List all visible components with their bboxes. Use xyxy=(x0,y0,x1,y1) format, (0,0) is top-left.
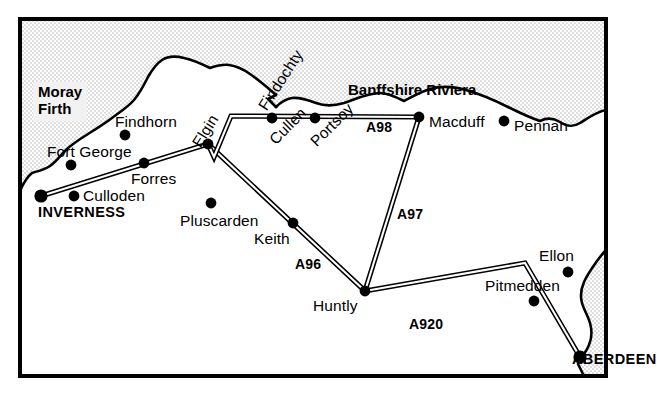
settlement-dot-findhorn[interactable] xyxy=(120,130,131,141)
road-label-a96[interactable]: A96 xyxy=(295,257,321,271)
water-label-moray-firth: Moray Firth xyxy=(33,82,87,121)
settlement-label-aberdeen[interactable]: ABERDEEN xyxy=(572,352,657,367)
settlement-label-forres[interactable]: Forres xyxy=(131,171,176,187)
road-label-a97[interactable]: A97 xyxy=(397,207,423,221)
settlement-dot-fort-george[interactable] xyxy=(66,160,77,171)
settlement-dot-keith[interactable] xyxy=(288,218,299,229)
settlement-dot-pitmedden[interactable] xyxy=(529,296,540,307)
water-label-line2: Firth xyxy=(38,101,82,118)
settlement-dot-inverness[interactable] xyxy=(34,189,47,202)
settlement-label-fort-george[interactable]: Fort George xyxy=(47,144,132,160)
region-label-banffshire-riviera: Banffshire Riviera xyxy=(348,82,476,97)
settlement-label-ellon[interactable]: Ellon xyxy=(539,248,574,264)
settlement-dot-cullen[interactable] xyxy=(267,113,278,124)
settlement-dot-forres[interactable] xyxy=(139,158,150,169)
settlement-dot-pennan[interactable] xyxy=(499,116,510,127)
settlement-label-keith[interactable]: Keith xyxy=(254,231,290,247)
settlement-label-huntly[interactable]: Huntly xyxy=(313,298,358,314)
settlement-label-pitmedden[interactable]: Pitmedden xyxy=(485,278,560,294)
road-label-a920[interactable]: A920 xyxy=(409,317,443,331)
settlement-label-pluscarden[interactable]: Pluscarden xyxy=(180,213,259,229)
settlement-dot-culloden[interactable] xyxy=(69,191,80,202)
road-label-a98[interactable]: A98 xyxy=(366,120,392,134)
settlement-dot-portsoy[interactable] xyxy=(310,113,321,124)
settlement-dot-macduff[interactable] xyxy=(414,112,425,123)
settlement-label-findhorn[interactable]: Findhorn xyxy=(115,114,177,130)
settlement-dot-huntly[interactable] xyxy=(360,286,371,297)
settlement-label-culloden[interactable]: Culloden xyxy=(83,188,145,204)
settlement-label-pennan[interactable]: Pennan xyxy=(514,118,568,134)
settlement-label-macduff[interactable]: Macduff xyxy=(429,114,485,130)
settlement-dot-ellon[interactable] xyxy=(563,267,574,278)
settlement-label-inverness[interactable]: INVERNESS xyxy=(38,205,125,220)
water-label-line1: Moray xyxy=(38,84,82,101)
settlement-dot-pluscarden[interactable] xyxy=(206,198,217,209)
